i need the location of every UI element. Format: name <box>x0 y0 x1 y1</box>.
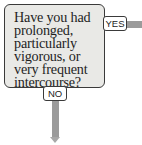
no-connector <box>52 99 59 137</box>
no-label: NO <box>43 86 67 101</box>
yes-label: YES <box>103 16 127 31</box>
question-box: Have you had prolonged, particularly vig… <box>4 4 105 88</box>
down-arrow-icon <box>50 137 60 143</box>
